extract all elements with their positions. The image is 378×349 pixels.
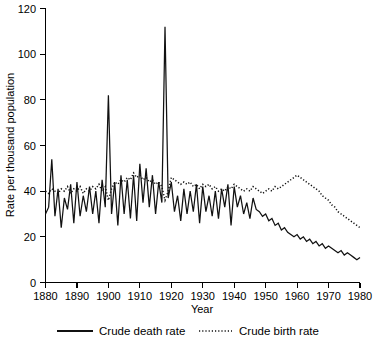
y-axis-title: Rate per thousand population — [4, 73, 16, 217]
x-tick-label: 1910 — [128, 290, 152, 302]
x-tick-label: 1930 — [191, 290, 215, 302]
y-tick-label: 80 — [24, 94, 36, 106]
y-tick-label: 20 — [24, 231, 36, 243]
y-tick-label: 0 — [30, 277, 36, 289]
x-tick-label: 1960 — [285, 290, 309, 302]
y-tick-label: 40 — [24, 185, 36, 197]
crude-rates-line-chart: 120 100 80 60 40 20 0 Rate per thousand … — [0, 0, 378, 349]
series-line-crude-birth-rate — [46, 173, 361, 228]
y-tick-label: 120 — [18, 3, 36, 15]
x-axis-ticks — [46, 283, 361, 289]
y-tick-label: 60 — [24, 140, 36, 152]
x-tick-label: 1880 — [33, 290, 57, 302]
x-tick-label: 1900 — [96, 290, 120, 302]
series-line-crude-death-rate — [46, 27, 361, 260]
legend-label-crude-death-rate: Crude death rate — [99, 325, 185, 337]
legend-label-crude-birth-rate: Crude birth rate — [239, 325, 319, 337]
x-tick-label: 1940 — [222, 290, 246, 302]
y-axis-tick-labels: 120 100 80 60 40 20 0 — [18, 3, 36, 289]
x-tick-label: 1970 — [316, 290, 340, 302]
x-axis-title: Year — [191, 303, 214, 315]
x-tick-label: 1980 — [348, 290, 372, 302]
x-tick-label: 1920 — [159, 290, 183, 302]
x-tick-label: 1890 — [65, 290, 89, 302]
y-axis-ticks — [40, 9, 46, 283]
x-axis-tick-labels: 1880189019001910192019301940195019601970… — [33, 290, 372, 302]
figure-container: 120 100 80 60 40 20 0 Rate per thousand … — [0, 0, 378, 349]
y-tick-label: 100 — [18, 48, 36, 60]
chart-legend: Crude death rate Crude birth rate — [57, 325, 319, 337]
x-tick-label: 1950 — [253, 290, 277, 302]
